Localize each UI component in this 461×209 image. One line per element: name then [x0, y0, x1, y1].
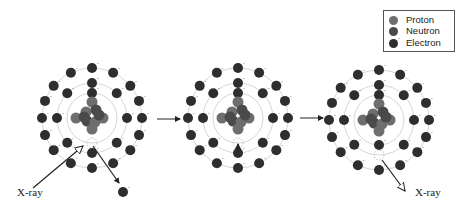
charge-minus-icon: - [419, 112, 421, 118]
electron-icon [280, 130, 290, 140]
charge-minus-icon: - [222, 155, 224, 161]
electron-icon [374, 65, 384, 75]
charge-minus-icon: - [346, 144, 348, 150]
atom-emission: ------------------------- [324, 62, 436, 175]
charge-minus-icon: - [405, 67, 407, 73]
electron-icon [258, 138, 268, 148]
electron-icon [424, 115, 434, 125]
legend-label: Proton [406, 14, 434, 25]
electron-icon [87, 78, 97, 88]
charge-minus-icon: - [290, 127, 292, 133]
charge-minus-icon: - [281, 78, 283, 84]
electron-icon [195, 145, 205, 155]
electron-icon [233, 163, 243, 173]
charge-minus-icon: - [243, 160, 245, 166]
electron-icon [254, 68, 264, 78]
electron-icon [374, 140, 384, 150]
proton-icon [374, 126, 385, 137]
electron-icon [327, 98, 337, 108]
electron-icon [186, 96, 196, 106]
neutron-icon [225, 112, 236, 123]
charge-minus-icon: - [132, 110, 134, 116]
atom-initial: ------------------------- [37, 60, 149, 173]
electron-icon [49, 145, 59, 155]
legend-item-electron: - Electron [384, 38, 454, 49]
atom-transition: ------------------------- [183, 60, 295, 173]
charge-minus-icon: - [422, 80, 424, 86]
charge-minus-icon: - [59, 142, 61, 148]
neutron-icon [366, 114, 377, 125]
proton-icon [233, 124, 244, 135]
charge-minus-icon: - [409, 87, 411, 93]
electron-icon [183, 113, 193, 123]
electron-icon [112, 138, 122, 148]
electron-icon [327, 132, 337, 142]
proton-icon [389, 16, 398, 25]
charge-minus-icon: - [431, 129, 433, 135]
charge-minus-icon: - [290, 93, 292, 99]
neutron-icon [79, 112, 90, 123]
charge-minus-icon: - [76, 155, 78, 161]
charge-minus-icon: - [128, 184, 130, 190]
electron-icon [271, 81, 281, 91]
electron-icon [399, 90, 409, 100]
charge-minus-icon: - [337, 95, 339, 101]
charge-minus-icon: - [293, 110, 295, 116]
charge-minus-icon: - [50, 93, 52, 99]
electron-icon [62, 138, 72, 148]
electron-icon [336, 83, 346, 93]
charge-minus-icon: - [243, 60, 245, 66]
electron-icon [233, 63, 243, 73]
electron-icon [118, 187, 128, 197]
electron-icon [353, 70, 363, 80]
charge-minus-icon: - [422, 144, 424, 150]
electron-icon [349, 140, 359, 150]
charge-minus-icon: - [97, 75, 99, 81]
charge-minus-icon: - [384, 87, 386, 93]
charge-minus-icon: - [196, 93, 198, 99]
charge-minus-icon: - [384, 77, 386, 83]
electron-icon [271, 145, 281, 155]
charge-minus-icon: - [97, 85, 99, 91]
electron-icon [195, 81, 205, 91]
electron-icon [412, 83, 422, 93]
electron-icon [66, 68, 76, 78]
charge-minus-icon: - [243, 75, 245, 81]
charge-minus-icon: - [337, 129, 339, 135]
electron-icon [412, 147, 422, 157]
electron-icon [389, 39, 398, 48]
charge-minus-icon: - [122, 85, 124, 91]
charge-minus-icon: - [122, 135, 124, 141]
charge-minus-icon: - [409, 137, 411, 143]
electron-icon [374, 80, 384, 90]
electron-icon [399, 140, 409, 150]
charge-minus-icon: - [62, 110, 64, 116]
neutron-icon [389, 27, 398, 36]
charge-minus-icon: - [118, 155, 120, 161]
electron-icon [40, 130, 50, 140]
charge-minus-icon: - [243, 85, 245, 91]
charge-minus-icon: - [97, 145, 99, 151]
charge-minus-icon: - [50, 127, 52, 133]
emitted-xray-label: X-ray [415, 186, 441, 198]
charge-minus-icon: - [147, 110, 149, 116]
charge-minus-icon: - [384, 62, 386, 68]
charge-minus-icon: - [268, 135, 270, 141]
legend-item-neutron: Neutron [384, 26, 454, 37]
electron-icon [233, 78, 243, 88]
electron-icon [122, 113, 132, 123]
electron-icon [409, 115, 419, 125]
legend: Proton Neutron - Electron [383, 10, 455, 52]
neutron-icon [94, 110, 105, 121]
charge-minus-icon: - [144, 127, 146, 133]
charge-minus-icon: - [281, 142, 283, 148]
charge-minus-icon: - [243, 145, 245, 151]
electron-icon [40, 96, 50, 106]
electron-icon [108, 158, 118, 168]
charge-minus-icon: - [97, 60, 99, 66]
electron-icon [134, 96, 144, 106]
charge-minus-icon: - [431, 95, 433, 101]
electron-icon [353, 160, 363, 170]
electron-icon [112, 88, 122, 98]
charge-minus-icon: - [205, 142, 207, 148]
